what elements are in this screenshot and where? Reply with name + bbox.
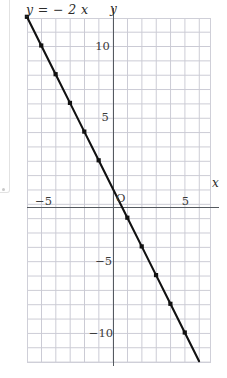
origin-label: O: [116, 191, 125, 205]
y-tick-label: −5: [95, 254, 112, 268]
graph-figure: y = − 2 x y x −55105−5−10 O: [0, 0, 227, 378]
function-line: [27, 17, 199, 361]
data-point-marker: [154, 273, 158, 277]
data-point-marker: [39, 43, 43, 47]
x-tick-label: −5: [35, 194, 52, 208]
y-axis-label: y: [110, 2, 117, 16]
data-point-marker: [54, 72, 58, 76]
y-tick-label: 10: [95, 39, 110, 53]
data-point-marker: [125, 216, 129, 220]
data-point-marker: [140, 244, 144, 248]
x-tick-label: 5: [182, 194, 189, 208]
data-point-marker: [82, 130, 86, 134]
y-tick-label: 5: [102, 110, 109, 124]
data-point-marker: [183, 330, 187, 334]
data-point-marker: [68, 101, 72, 105]
x-axis-label: x: [212, 176, 219, 190]
equation-label: y = − 2 x: [26, 2, 89, 17]
y-tick-label: −10: [89, 326, 113, 340]
data-point-marker: [97, 158, 101, 162]
edge-marker-dot: [2, 188, 5, 191]
edge-frame-artifact: [0, 0, 10, 193]
data-point-marker: [168, 302, 172, 306]
